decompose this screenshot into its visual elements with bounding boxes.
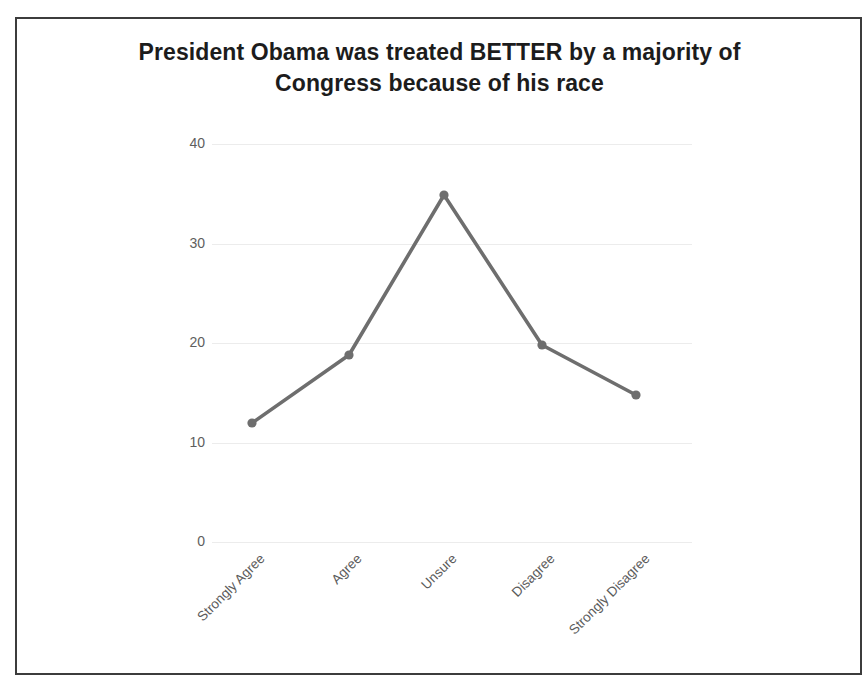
data-point-strongly-disagree <box>631 390 640 399</box>
plot-area: 40 30 20 10 0 Strongly Agree Agree Unsur… <box>17 19 864 677</box>
xtick-label-strongly-disagree: Strongly Disagree <box>550 551 653 654</box>
data-point-agree <box>344 350 353 359</box>
ytick-label-0: 0 <box>165 533 205 549</box>
gridline-0 <box>212 542 692 543</box>
gridline-20 <box>212 343 692 344</box>
xtick-label-disagree: Disagree <box>489 551 558 620</box>
data-point-disagree <box>537 340 546 349</box>
gridline-30 <box>212 244 692 245</box>
data-point-unsure <box>439 190 448 199</box>
ytick-label-40: 40 <box>165 135 205 151</box>
data-point-strongly-agree <box>247 418 256 427</box>
ytick-label-20: 20 <box>165 334 205 350</box>
figure-frame: President Obama was treated BETTER by a … <box>15 17 862 675</box>
xtick-label-unsure: Unsure <box>396 551 460 615</box>
xtick-label-agree: Agree <box>308 551 365 608</box>
series-polyline <box>252 195 636 423</box>
ytick-label-10: 10 <box>165 434 205 450</box>
ytick-label-30: 30 <box>165 235 205 251</box>
gridline-40 <box>212 144 692 145</box>
xtick-label-strongly-agree: Strongly Agree <box>179 551 267 639</box>
gridline-10 <box>212 443 692 444</box>
